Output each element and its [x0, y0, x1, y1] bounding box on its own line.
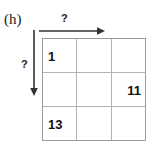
- top-axis-label: ?: [61, 13, 68, 24]
- grid-cell-r2c3[interactable]: 11: [112, 73, 146, 107]
- grid-cell-r1c2[interactable]: [77, 39, 111, 73]
- grid-cell-value: 1: [48, 49, 55, 62]
- puzzle-grid: 1 11 13: [42, 38, 146, 141]
- left-axis-label: ?: [21, 59, 28, 70]
- top-arrow-right-icon: [39, 25, 109, 37]
- grid-cell-r3c1[interactable]: 13: [43, 107, 77, 141]
- grid-cell-r1c3[interactable]: [112, 39, 146, 73]
- grid-cell-value: 11: [127, 83, 141, 96]
- panel-label: (h): [4, 12, 22, 27]
- grid-cell-value: 13: [48, 117, 62, 130]
- figure-panel: (h) ? ? 1 11 13: [0, 0, 152, 155]
- grid-cell-r3c3[interactable]: [112, 107, 146, 141]
- grid-cell-r2c2[interactable]: [77, 73, 111, 107]
- left-arrow-down-icon: [28, 30, 40, 100]
- grid-cell-r2c1[interactable]: [43, 73, 77, 107]
- grid-cell-r3c2[interactable]: [77, 107, 111, 141]
- grid-cell-r1c1[interactable]: 1: [43, 39, 77, 73]
